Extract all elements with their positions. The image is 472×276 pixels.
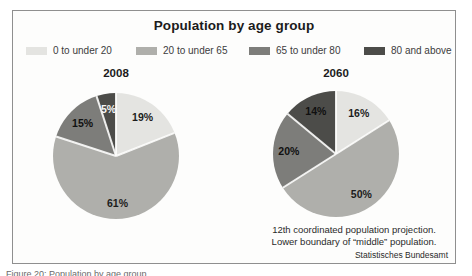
footnote: 12th coordinated population projection. … [251,224,457,248]
legend-item-80-and-above: 80 and above [364,44,452,57]
legend-swatch-icon [26,47,47,55]
slice-label-2060-0-to-under-20: 16% [348,107,369,119]
figure-caption-clipped: Figure 20: Population by age group [6,269,306,276]
slice-label-2060-80-and-above: 14% [305,105,326,117]
pie-title-2060: 2060 [273,67,399,79]
legend-item-20-to-under-65: 20 to under 65 [136,44,228,57]
legend-label: 20 to under 65 [163,45,228,56]
legend-swatch-icon [364,47,385,55]
slice-divider [335,91,337,154]
footnote-line-2: Lower boundary of “middle” population. [251,236,457,248]
page: { "chart_data": { "type": "pie", "title"… [0,0,472,276]
legend-swatch-icon [249,47,270,55]
pie-chart-2008: 19%61%15%5% [53,93,179,219]
footnote-line-1: 12th coordinated population projection. [251,224,457,236]
legend-item-65-to-under-80: 65 to under 80 [249,44,341,57]
source-label: Statistisches Bundesamt [355,250,448,260]
slice-label-2008-0-to-under-20: 19% [132,111,153,123]
pie-chart-2060: 16%50%20%14% [273,91,399,217]
legend-swatch-icon [136,47,157,55]
legend-label: 0 to under 20 [53,45,112,56]
slice-label-2060-20-to-under-65: 50% [351,188,372,200]
legend-item-0-to-under-20: 0 to under 20 [26,44,112,57]
pie-title-2008: 2008 [53,67,179,79]
slice-label-2008-80-and-above: 5% [101,103,116,115]
legend-label: 65 to under 80 [276,45,341,56]
slice-label-2060-65-to-under-80: 20% [278,145,299,157]
chart-panel: Population by age group 0 to under 20 20… [12,10,456,264]
slice-label-2008-20-to-under-65: 61% [107,197,128,209]
slice-label-2008-65-to-under-80: 15% [72,117,93,129]
legend-label: 80 and above [391,45,452,56]
chart-title: Population by age group [13,18,455,33]
